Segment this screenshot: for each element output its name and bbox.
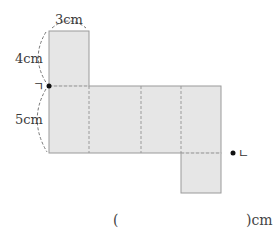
middle-height-label: 5cm [15, 112, 43, 127]
top-height-label: 4cm [15, 51, 43, 66]
answer-blank[interactable] [122, 212, 242, 230]
answer-close-paren-unit: )cm [246, 212, 273, 228]
top-width-label: 3cm [55, 12, 83, 27]
point-label-nieun: ㄴ [238, 144, 249, 161]
point-nieun [231, 151, 236, 156]
middle-strip [49, 86, 221, 153]
answer-open-paren: ( [113, 212, 118, 228]
point-label-giyeok: ㄱ [33, 77, 44, 94]
top-face [49, 31, 89, 86]
bottom-face [181, 153, 221, 193]
point-giyeok [47, 84, 52, 89]
